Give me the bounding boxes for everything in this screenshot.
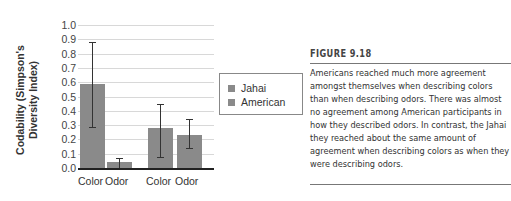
error-bar-cap bbox=[186, 148, 193, 149]
legend-label: American bbox=[241, 96, 285, 108]
legend-swatch bbox=[228, 85, 235, 92]
error-bar-cap bbox=[116, 158, 123, 159]
x-tick-label: Odor bbox=[175, 175, 198, 187]
chart-legend: Jahai American bbox=[219, 73, 303, 115]
y-tick-label: 1.0 bbox=[56, 20, 76, 30]
divider-top bbox=[310, 63, 511, 64]
legend-item-american: American bbox=[228, 96, 285, 108]
gridline bbox=[78, 25, 214, 26]
gridline bbox=[78, 68, 214, 69]
figure-title: FIGURE 9.18 bbox=[310, 48, 372, 59]
error-bar bbox=[92, 42, 93, 126]
y-tick-label: 0.8 bbox=[56, 49, 76, 59]
y-tick-label: 0.0 bbox=[56, 163, 76, 173]
error-bar-cap bbox=[186, 119, 193, 120]
x-axis-line bbox=[78, 168, 214, 170]
y-tick-label: 0.6 bbox=[56, 77, 76, 87]
x-tick-label: Color bbox=[146, 175, 171, 187]
error-bar bbox=[189, 119, 190, 148]
error-bar-cap bbox=[89, 127, 96, 128]
y-tick-label: 0.2 bbox=[56, 134, 76, 144]
y-tick-label: 0.9 bbox=[56, 34, 76, 44]
x-tick-label: Color bbox=[78, 175, 103, 187]
gridline bbox=[78, 54, 214, 55]
legend-swatch bbox=[228, 99, 235, 106]
y-axis-label-line2: Diversity Index) bbox=[27, 30, 40, 170]
bar-chart-plot: 0.00.10.20.30.40.50.60.70.80.91.0ColorOd… bbox=[78, 25, 214, 168]
figure-caption: Americans reached much more agreement am… bbox=[310, 67, 511, 171]
gridline bbox=[78, 39, 214, 40]
y-tick-label: 0.1 bbox=[56, 149, 76, 159]
y-tick-label: 0.4 bbox=[56, 106, 76, 116]
error-bar bbox=[160, 104, 161, 157]
error-bar-cap bbox=[157, 104, 164, 105]
divider-bottom bbox=[310, 184, 511, 185]
x-tick-label: Odor bbox=[105, 175, 128, 187]
error-bar-cap bbox=[89, 42, 96, 43]
y-axis-label-line1: Codability (Simpson's bbox=[14, 30, 27, 170]
y-tick-label: 0.3 bbox=[56, 120, 76, 130]
y-tick-label: 0.7 bbox=[56, 63, 76, 73]
y-tick-label: 0.5 bbox=[56, 92, 76, 102]
legend-item-jahai: Jahai bbox=[228, 82, 266, 94]
y-axis-label: Codability (Simpson's Diversity Index) bbox=[14, 30, 54, 170]
error-bar bbox=[119, 158, 120, 168]
error-bar-cap bbox=[157, 157, 164, 158]
legend-label: Jahai bbox=[241, 82, 266, 94]
